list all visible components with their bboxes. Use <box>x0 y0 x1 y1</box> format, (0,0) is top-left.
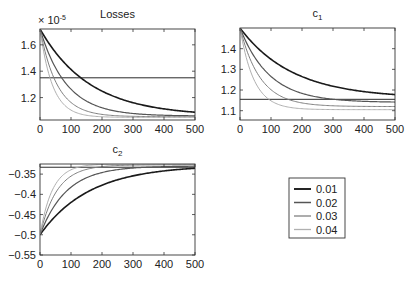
series-line-0_04 <box>40 164 195 235</box>
legend-label: 0.04 <box>316 224 337 236</box>
y-tick-label: 1.2 <box>221 84 236 96</box>
series-line-0_02 <box>40 29 195 116</box>
y-tick-label: −0.4 <box>14 188 36 200</box>
x-tick-label: 0 <box>237 123 243 135</box>
losses-panel: 01002003004005001.21.41.6Losses× 10-5 <box>21 8 204 135</box>
y-tick-label: −0.55 <box>8 249 36 261</box>
series-line-0_01 <box>40 168 195 235</box>
x-tick-label: 200 <box>93 123 111 135</box>
c1-panel: 01002003004005001.11.21.31.4c1 <box>221 7 404 135</box>
axes-box <box>40 29 195 120</box>
x-tick-label: 200 <box>93 258 111 270</box>
series-line-0_01 <box>40 29 195 112</box>
x-tick-label: 100 <box>62 123 80 135</box>
multiplier-base: × 10 <box>38 14 60 26</box>
x-tick-label: 500 <box>386 123 404 135</box>
x-tick-label: 300 <box>124 123 142 135</box>
multiplier-exponent: -5 <box>60 14 66 21</box>
legend-label: 0.01 <box>316 183 337 195</box>
title-subscript: 1 <box>318 13 323 22</box>
series-group <box>40 164 195 235</box>
legend-label: 0.03 <box>316 210 337 222</box>
y-tick-label: 1.1 <box>221 105 236 117</box>
y-tick-label: 1.4 <box>21 65 36 77</box>
x-tick-label: 300 <box>324 123 342 135</box>
multiplier-label: × 10-5 <box>38 14 66 26</box>
c2-panel: 0100200300400500−0.55−0.5−0.45−0.4−0.35c… <box>8 143 204 270</box>
x-tick-label: 500 <box>186 123 204 135</box>
figure: 01002003004005001.21.41.6Losses× 10-5 01… <box>0 0 412 284</box>
y-tick-label: 1.4 <box>221 43 236 55</box>
y-tick-label: 1.3 <box>221 63 236 75</box>
title-main: Losses <box>100 8 135 20</box>
x-tick-label: 100 <box>262 123 280 135</box>
c1-title: c1 <box>313 7 324 22</box>
x-tick-label: 400 <box>155 123 173 135</box>
series-line-0_02 <box>240 28 395 102</box>
x-tick-label: 100 <box>62 258 80 270</box>
series-line-0_04 <box>40 29 195 117</box>
x-tick-label: 0 <box>37 258 43 270</box>
c2-title: c2 <box>113 143 124 158</box>
y-tick-label: −0.5 <box>14 229 36 241</box>
x-tick-label: 200 <box>293 123 311 135</box>
y-tick-label: −0.45 <box>8 209 36 221</box>
title-subscript: 2 <box>118 149 123 158</box>
x-tick-label: 300 <box>124 258 142 270</box>
y-tick-label: 1.2 <box>21 92 36 104</box>
series-line-0_02 <box>40 166 195 235</box>
x-tick-label: 500 <box>186 258 204 270</box>
legend-label: 0.02 <box>316 197 337 209</box>
x-tick-label: 400 <box>355 123 373 135</box>
y-tick-label: 1.6 <box>21 39 36 51</box>
y-tick-label: −0.35 <box>8 168 36 180</box>
legend: 0.010.020.030.04 <box>289 178 345 238</box>
x-tick-label: 0 <box>37 123 43 135</box>
series-line-0_01 <box>240 28 395 95</box>
losses-title: Losses <box>100 8 135 20</box>
series-group <box>40 29 195 117</box>
series-group <box>240 28 395 110</box>
x-tick-label: 400 <box>155 258 173 270</box>
